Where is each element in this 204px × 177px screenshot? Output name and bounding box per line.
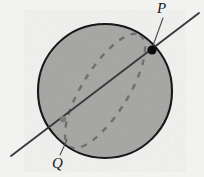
figure-container: P Q	[0, 0, 204, 177]
point-p-label: P	[157, 1, 166, 16]
point-q-marker	[60, 116, 67, 123]
point-p-marker	[147, 45, 156, 54]
sphere-secant-diagram	[0, 0, 204, 177]
point-q-label: Q	[52, 156, 63, 171]
sphere-group	[38, 24, 172, 158]
